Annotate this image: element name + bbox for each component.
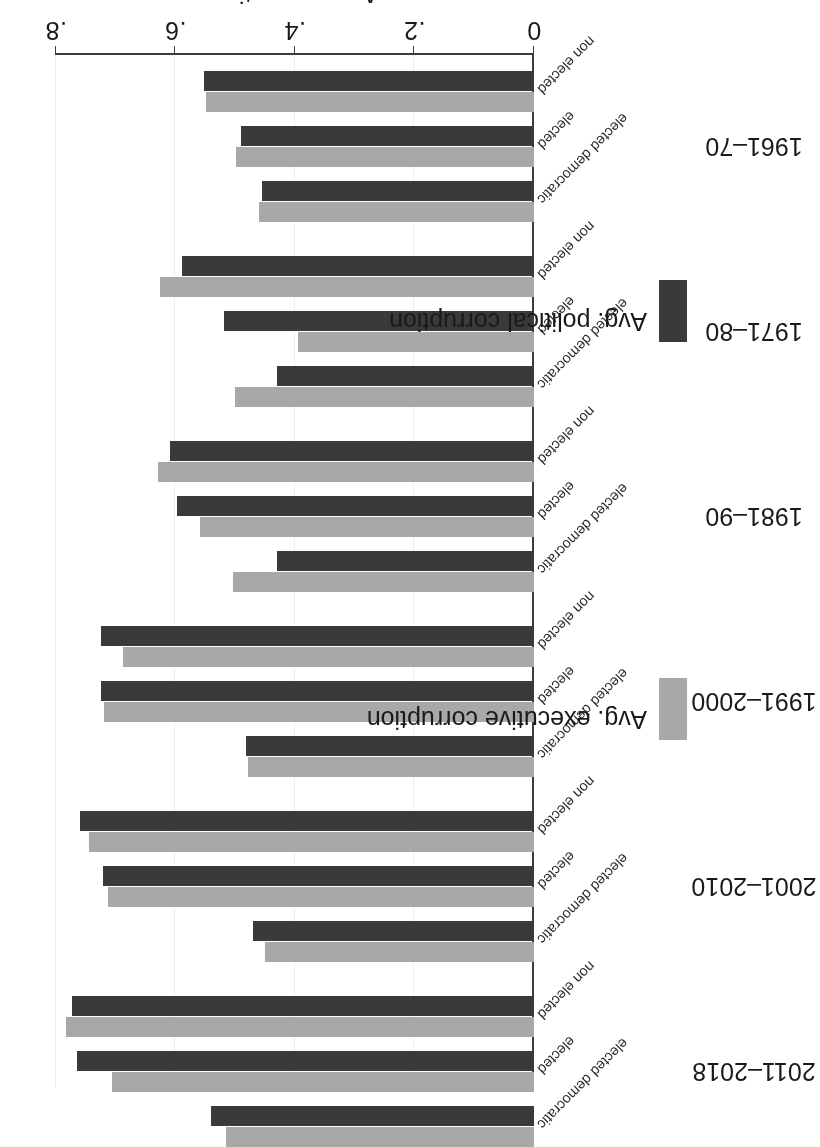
x-axis-tick-label: 0 xyxy=(504,16,564,45)
bar-political-corruption xyxy=(277,366,534,386)
bar-executive-corruption xyxy=(158,462,534,482)
x-axis-title: Avg. corruption xyxy=(56,0,534,8)
bar-political-corruption xyxy=(182,256,534,276)
decade-label: 2011–2018 xyxy=(674,1058,820,1087)
x-axis-tick-label: .6 xyxy=(146,16,206,45)
bar-executive-corruption xyxy=(108,887,534,907)
bar-political-corruption xyxy=(77,1051,534,1071)
gridline xyxy=(55,55,56,1087)
bar-executive-corruption xyxy=(259,202,534,222)
x-axis-tick xyxy=(294,46,295,55)
bar-political-corruption xyxy=(204,71,534,91)
x-axis-tick-label: .2 xyxy=(385,16,445,45)
bar-political-corruption xyxy=(262,181,534,201)
bar-political-corruption xyxy=(72,996,534,1016)
bar-executive-corruption xyxy=(123,647,534,667)
legend-label: Avg. executive corruption xyxy=(367,705,647,734)
legend-swatch xyxy=(659,678,687,740)
bar-executive-corruption xyxy=(160,277,534,297)
bar-political-corruption xyxy=(103,866,534,886)
bar-executive-corruption xyxy=(89,832,534,852)
legend-swatch xyxy=(659,280,687,342)
bar-executive-corruption xyxy=(226,1127,534,1147)
decade-label: 1961–70 xyxy=(674,133,820,162)
bar-executive-corruption xyxy=(235,387,534,407)
x-axis-tick xyxy=(413,46,414,55)
bar-executive-corruption xyxy=(200,517,534,537)
x-axis-tick xyxy=(55,46,56,55)
x-axis-tick-label: .4 xyxy=(265,16,325,45)
decade-label: 1991–2000 xyxy=(674,688,820,717)
x-axis-tick xyxy=(174,46,175,55)
bar-executive-corruption xyxy=(233,572,534,592)
decade-label: 1971–80 xyxy=(674,318,820,347)
bar-political-corruption xyxy=(246,736,534,756)
bar-executive-corruption xyxy=(112,1072,534,1092)
bar-political-corruption xyxy=(211,1106,534,1126)
decade-label: 2001–2010 xyxy=(674,873,820,902)
bar-executive-corruption xyxy=(206,92,534,112)
legend-label: Avg. political corruption xyxy=(389,307,647,336)
bar-executive-corruption xyxy=(66,1017,534,1037)
bar-political-corruption xyxy=(177,496,534,516)
gridline xyxy=(175,55,176,1087)
bar-political-corruption xyxy=(101,626,534,646)
decade-label: 1981–90 xyxy=(674,503,820,532)
bar-executive-corruption xyxy=(236,147,534,167)
x-axis-tick-label: .8 xyxy=(26,16,86,45)
bar-political-corruption xyxy=(80,811,534,831)
x-axis-tick xyxy=(533,46,534,55)
bar-political-corruption xyxy=(253,921,534,941)
bar-executive-corruption xyxy=(265,942,534,962)
bar-political-corruption xyxy=(277,551,534,571)
bar-executive-corruption xyxy=(248,757,534,777)
bar-political-corruption xyxy=(170,441,534,461)
bar-political-corruption xyxy=(101,681,534,701)
bar-political-corruption xyxy=(241,126,534,146)
